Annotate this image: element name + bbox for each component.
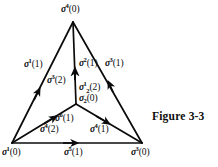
- sigma-superscript: 1: [84, 80, 87, 87]
- sigma-value: (1): [32, 59, 43, 69]
- sigma-value: (1): [87, 58, 98, 68]
- sigma-value: (2): [89, 82, 100, 92]
- edge-inner-right: [76, 104, 142, 143]
- vertex-label-bottom-left: σ1(0): [2, 148, 21, 158]
- figure-caption: Figure 3-3: [152, 110, 205, 122]
- face-label-center: σ12(2): [79, 83, 100, 93]
- edge-label-inner-left: σ6(1): [55, 114, 74, 124]
- edge-label-inner-right: σ4(1): [90, 125, 109, 135]
- face-label-bottom: σ4(2): [40, 125, 59, 135]
- center-label-stack: σ12(2) σ2(0): [79, 83, 100, 103]
- sigma-value: (1): [98, 124, 109, 134]
- sigma-value: (0): [87, 93, 98, 103]
- sigma-value: (2): [55, 75, 66, 85]
- sigma-value: (0): [10, 147, 21, 157]
- simplicial-complex-drawing: [0, 0, 218, 167]
- vertex-label-interior: σ2(0): [79, 94, 100, 104]
- sigma-value: (1): [113, 58, 124, 68]
- sigma-value: (1): [63, 113, 74, 123]
- vertex-label-apex: σ4(0): [61, 5, 80, 15]
- sigma-value: (2): [48, 124, 59, 134]
- sigma-value: (1): [72, 147, 83, 157]
- edge-center-vertical: [73, 22, 76, 104]
- figure-3-3: σ4(0) σ1(0) σ3(0) σ1(1) σ2(1) σ3(1) σ5(1…: [0, 0, 218, 167]
- edge-label-right: σ3(1): [105, 59, 124, 69]
- edge-label-center: σ2(1): [79, 59, 98, 69]
- vertex-label-bottom-right: σ3(0): [131, 148, 150, 158]
- sigma-value: (0): [139, 147, 150, 157]
- face-label-left: σ3(2): [47, 76, 66, 86]
- arrowhead-left-edge: [34, 90, 39, 100]
- sigma-value: (0): [69, 4, 80, 14]
- edge-label-bottom: σ5(1): [64, 148, 83, 158]
- edge-label-left: σ1(1): [24, 60, 43, 70]
